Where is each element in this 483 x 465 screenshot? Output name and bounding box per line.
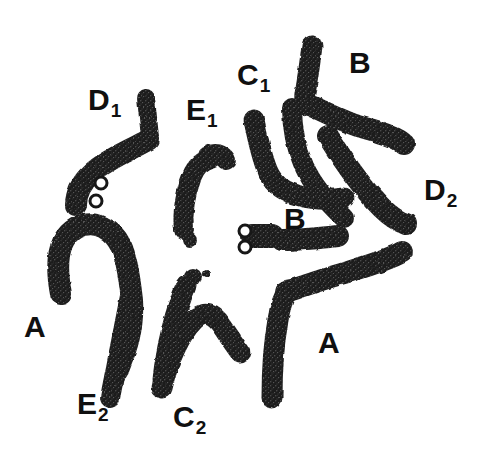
chromosome-label-e1-subscript: 1 <box>207 110 218 131</box>
chromosome-label-a-left-base: A <box>24 310 46 343</box>
satellite-ring-b-upper <box>239 225 251 237</box>
chromosome-label-d1-subscript: 1 <box>111 100 122 121</box>
chromosome-c2-satellite-large <box>184 268 202 286</box>
chromosome-e1 <box>183 154 226 230</box>
chromosome-label-a-right-base: A <box>318 326 340 359</box>
satellite-ring-b-lower <box>239 241 251 253</box>
chromosome-c2-satellite-small <box>202 270 210 278</box>
chromosome-d1-long-arm <box>76 140 148 205</box>
chromosome-label-b-middle-base: B <box>284 202 306 235</box>
chromosome-label-d2-base: D <box>424 173 446 206</box>
chromosome-label-c1: C1 <box>237 60 269 90</box>
chromosome-label-c2-base: C <box>173 400 195 433</box>
chromosome-label-a-left: A <box>24 312 46 342</box>
chromosome-label-d2: D2 <box>424 175 456 205</box>
chromosome-label-c2: C2 <box>173 402 205 432</box>
chromosome-a-right-arm2 <box>286 252 402 292</box>
satellite-ring-d1-lower <box>90 195 102 207</box>
chromosome-label-d1: D1 <box>88 85 120 115</box>
chromosome-label-d1-base: D <box>88 83 110 116</box>
chromosome-label-e1-base: E <box>186 93 206 126</box>
chromosome-label-d2-subscript: 2 <box>447 190 458 211</box>
chromosome-label-b-top: B <box>349 48 371 78</box>
chromosome-label-b-top-base: B <box>349 46 371 79</box>
satellite-ring-d1-upper <box>95 177 107 189</box>
chromosome-label-b-middle: B <box>284 204 306 234</box>
chromosome-b-middle-arm <box>282 236 338 240</box>
chromosome-label-e2-base: E <box>77 387 97 420</box>
chromosome-label-c1-subscript: 1 <box>260 75 271 96</box>
chromosome-figure: D1E1C1BD2BAAE2C2 <box>0 0 483 465</box>
chromosome-label-c2-subscript: 2 <box>196 417 207 438</box>
chromosome-label-a-right: A <box>318 328 340 358</box>
chromosome-label-e2-subscript: 2 <box>98 404 109 425</box>
chromosome-e1-satellite <box>183 233 197 247</box>
chromosome-e2 <box>110 296 130 398</box>
chromosome-a-right-arm1 <box>272 290 288 398</box>
chromosome-label-c1-base: C <box>237 58 259 91</box>
chromosome-label-e2: E2 <box>77 389 108 419</box>
chromosome-label-e1: E1 <box>186 95 217 125</box>
